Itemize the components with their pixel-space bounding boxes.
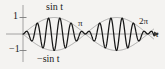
x-tick-label-two-pi: 2π	[139, 17, 148, 26]
figure-container: sin t −sin t π 2π t 1 −1	[0, 0, 165, 69]
plot-svg	[0, 0, 165, 69]
lower-envelope-label: −sin t	[37, 54, 60, 64]
x-axis-variable-label: t	[156, 30, 159, 39]
upper-envelope-label: sin t	[46, 2, 63, 12]
y-tick-label-negative-one: −1	[9, 44, 20, 54]
y-tick-label-one: 1	[13, 11, 18, 21]
x-tick-label-pi: π	[78, 19, 83, 28]
